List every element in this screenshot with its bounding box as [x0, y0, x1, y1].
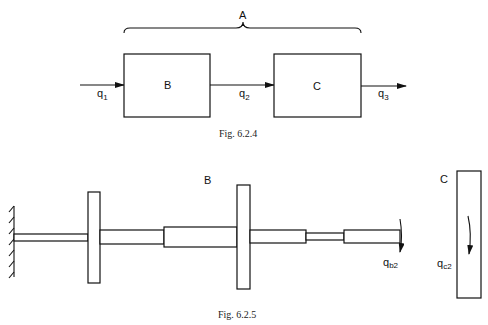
signal-q2: q2 — [239, 87, 250, 102]
fixed-wall — [9, 206, 14, 278]
subsystem-c-label: C — [440, 173, 448, 185]
shaft-5 — [306, 233, 344, 240]
shaft-4 — [250, 230, 306, 243]
signal-q3: q3 — [378, 87, 389, 102]
shaft-6 — [344, 230, 400, 243]
block-b-label: B — [164, 79, 171, 91]
coordinate-qc2: qc2 — [437, 257, 452, 271]
brace-a — [124, 22, 361, 33]
shaft-1 — [14, 234, 88, 241]
shaft-3 — [164, 227, 237, 247]
disk-1 — [88, 192, 100, 283]
disk-2 — [237, 185, 250, 289]
diagram-canvas: A q1 B q2 C q3 Fig. 6.2.4 B — [0, 0, 488, 325]
coordinate-qb2: qb2 — [383, 256, 399, 270]
brace-label-a: A — [239, 9, 247, 21]
caption-fig-6-2-4: Fig. 6.2.4 — [219, 128, 257, 139]
disk-c — [457, 171, 481, 298]
shaft-2 — [100, 230, 164, 244]
figure-6-2-5: B qb2 C — [9, 171, 481, 320]
signal-q1: q1 — [97, 87, 108, 102]
subsystem-b-label: B — [204, 174, 211, 186]
block-c-label: C — [313, 80, 321, 92]
figure-6-2-4: A q1 B q2 C q3 Fig. 6.2.4 — [80, 9, 406, 139]
caption-fig-6-2-5: Fig. 6.2.5 — [218, 309, 256, 320]
